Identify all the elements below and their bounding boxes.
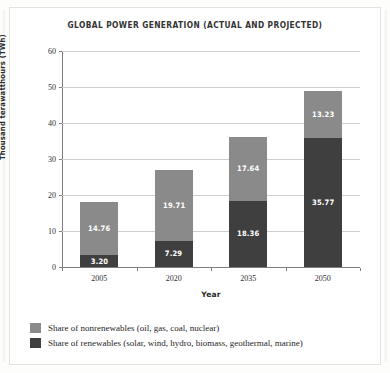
legend-item-renewables[interactable]: Share of renewables (solar, wind, hydro,… — [30, 335, 303, 350]
y-tick-label-60: 60 — [30, 47, 56, 56]
plot-area: 0102030405060 14.763.2019.717.2917.6418.… — [62, 51, 360, 268]
bar-segment-renewables-2020[interactable]: 7.29 — [155, 241, 193, 267]
x-tick-label-2020: 2020 — [144, 274, 204, 283]
y-tick-mark-50 — [59, 87, 62, 88]
bar-2035[interactable]: 17.6418.36 — [229, 137, 267, 267]
bar-2020[interactable]: 19.717.29 — [155, 170, 193, 267]
y-tick-label-40: 40 — [30, 119, 56, 128]
legend-swatch-icon — [30, 338, 41, 348]
x-tick-label-2005: 2005 — [69, 274, 129, 283]
y-tick-mark-40 — [59, 123, 62, 124]
legend-label: Share of nonrenewables (oil, gas, coal, … — [48, 323, 219, 333]
page-edge-right — [384, 10, 387, 362]
legend-label: Share of renewables (solar, wind, hydro,… — [48, 338, 303, 348]
x-tick-mark-2 — [211, 268, 212, 271]
bar-segment-renewables-2050[interactable]: 35.77 — [304, 138, 342, 267]
x-axis-title: Year — [62, 290, 360, 299]
x-tick-mark-0 — [62, 268, 63, 271]
bar-segment-renewables-2035[interactable]: 18.36 — [229, 201, 267, 267]
bar-value-renewables-2050: 35.77 — [312, 199, 334, 206]
bar-segment-nonrenewables-2005[interactable]: 14.76 — [80, 202, 118, 255]
bar-segment-nonrenewables-2035[interactable]: 17.64 — [229, 137, 267, 201]
bar-segment-nonrenewables-2020[interactable]: 19.71 — [155, 170, 193, 241]
y-tick-label-20: 20 — [30, 191, 56, 200]
bar-value-nonrenewables-2050: 13.23 — [312, 111, 334, 118]
bar-value-nonrenewables-2005: 14.76 — [88, 225, 110, 232]
bar-value-renewables-2035: 18.36 — [237, 230, 259, 237]
x-tick-mark-end — [360, 268, 361, 271]
y-tick-label-0: 0 — [30, 263, 56, 272]
x-tick-mark-1 — [137, 268, 138, 271]
chart-page: GLOBAL POWER GENERATION (ACTUAL AND PROJ… — [0, 0, 390, 373]
bar-value-nonrenewables-2035: 17.64 — [237, 165, 259, 172]
legend-swatch-icon — [30, 323, 41, 333]
bar-2050[interactable]: 13.2335.77 — [304, 91, 342, 267]
bar-segment-renewables-2005[interactable]: 3.20 — [80, 255, 118, 267]
y-tick-mark-10 — [59, 231, 62, 232]
legend-item-nonrenewables[interactable]: Share of nonrenewables (oil, gas, coal, … — [30, 320, 303, 335]
bar-segment-nonrenewables-2050[interactable]: 13.23 — [304, 91, 342, 139]
x-tick-label-2050: 2050 — [293, 274, 353, 283]
x-tick-label-2035: 2035 — [218, 274, 278, 283]
chart-title: GLOBAL POWER GENERATION (ACTUAL AND PROJ… — [23, 20, 366, 30]
y-tick-mark-30 — [59, 159, 62, 160]
bar-value-renewables-2005: 3.20 — [90, 258, 108, 265]
y-tick-label-10: 10 — [30, 227, 56, 236]
gridline-50 — [62, 87, 360, 88]
chart-legend: Share of nonrenewables (oil, gas, coal, … — [30, 320, 303, 350]
y-tick-label-50: 50 — [30, 83, 56, 92]
bar-value-renewables-2020: 7.29 — [165, 250, 183, 257]
y-tick-mark-60 — [59, 51, 62, 52]
y-tick-label-30: 30 — [30, 155, 56, 164]
bar-value-nonrenewables-2020: 19.71 — [163, 202, 185, 209]
x-tick-mark-3 — [286, 268, 287, 271]
y-axis-title: Thousand terawatthours (TWh) — [0, 34, 7, 160]
bar-2005[interactable]: 14.763.20 — [80, 202, 118, 267]
gridline-60 — [62, 51, 360, 52]
y-tick-mark-20 — [59, 195, 62, 196]
